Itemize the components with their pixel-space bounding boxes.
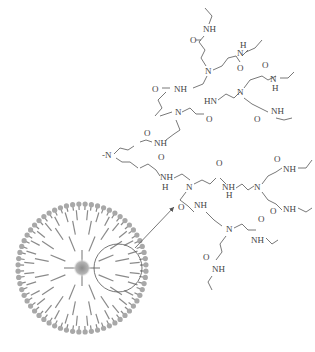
branch-segment bbox=[130, 262, 140, 263]
branch-segment bbox=[35, 275, 49, 278]
n-label: N bbox=[226, 224, 233, 234]
branch-segment bbox=[51, 255, 66, 261]
nh-label: NH bbox=[154, 138, 167, 148]
nh-label: NH bbox=[203, 24, 216, 34]
terminal-group bbox=[16, 256, 21, 261]
branch-segment bbox=[112, 305, 118, 313]
terminal-group bbox=[46, 211, 51, 216]
terminal-group bbox=[127, 308, 132, 313]
terminal-group bbox=[143, 269, 148, 274]
branch-segment bbox=[96, 314, 99, 324]
branch-segment bbox=[87, 316, 88, 326]
branch-segment bbox=[110, 287, 122, 295]
terminal-group bbox=[70, 329, 75, 334]
o-label: O bbox=[152, 84, 159, 94]
nh-label: NH bbox=[271, 106, 284, 116]
terminal-group bbox=[143, 256, 148, 261]
branch-segment bbox=[24, 273, 34, 274]
terminal-group bbox=[95, 327, 100, 332]
branch-segment bbox=[119, 298, 127, 304]
top-branch: NH O N O H N bbox=[190, 8, 262, 88]
n-label: N bbox=[175, 107, 182, 117]
nh-label: NH bbox=[283, 164, 296, 174]
branch-segment bbox=[31, 291, 40, 296]
branch-segment bbox=[124, 241, 133, 246]
h-label: H bbox=[272, 83, 279, 93]
methyl-n-label: -N bbox=[102, 150, 112, 160]
branch-segment bbox=[24, 262, 34, 263]
branch-segment bbox=[119, 231, 127, 237]
terminal-group bbox=[32, 308, 37, 313]
magnifier-circle bbox=[94, 244, 142, 292]
terminal-group bbox=[52, 323, 57, 328]
terminal-group bbox=[25, 232, 30, 237]
branch-segment bbox=[37, 231, 45, 237]
branch-segment bbox=[124, 291, 133, 296]
branch-segment bbox=[42, 241, 54, 249]
branch-segment bbox=[112, 223, 118, 231]
branch-segment bbox=[45, 223, 51, 231]
nh-label: NH bbox=[251, 235, 264, 245]
terminal-group bbox=[137, 293, 142, 298]
terminal-group bbox=[140, 287, 145, 292]
branch-segment bbox=[26, 251, 36, 254]
branch-segment bbox=[76, 316, 77, 326]
chemical-structure: NH O N O H N NH O N HN O N O bbox=[102, 8, 312, 290]
terminal-group bbox=[134, 298, 139, 303]
terminal-group bbox=[134, 232, 139, 237]
branch-segment bbox=[115, 259, 129, 262]
terminal-group bbox=[41, 317, 46, 322]
branch-segment bbox=[99, 275, 114, 281]
terminal-group bbox=[28, 304, 33, 309]
terminal-group bbox=[141, 250, 146, 255]
terminal-group bbox=[89, 329, 94, 334]
branch-segment bbox=[65, 314, 68, 324]
hn-label: HN bbox=[204, 96, 217, 106]
terminal-group bbox=[58, 326, 63, 331]
terminal-group bbox=[89, 202, 94, 207]
branch-segment bbox=[101, 228, 109, 240]
terminal-group bbox=[143, 275, 148, 280]
terminal-group bbox=[15, 269, 20, 274]
n-label: N bbox=[254, 182, 261, 192]
terminal-group bbox=[76, 201, 81, 206]
dendrimer-core bbox=[73, 259, 91, 277]
terminal-group bbox=[95, 203, 100, 208]
terminal-group bbox=[141, 281, 146, 286]
branch-segment bbox=[89, 237, 95, 252]
terminal-group bbox=[36, 218, 41, 223]
terminal-group bbox=[122, 313, 127, 318]
terminal-group bbox=[41, 214, 46, 219]
terminal-group bbox=[107, 208, 112, 213]
terminal-group bbox=[36, 313, 41, 318]
branch-segment bbox=[89, 221, 92, 235]
terminal-group bbox=[17, 281, 22, 286]
o-label: O bbox=[237, 63, 244, 73]
terminal-group bbox=[32, 222, 37, 227]
o-label: O bbox=[144, 128, 151, 138]
branch-segment bbox=[55, 296, 63, 308]
terminal-group bbox=[107, 323, 112, 328]
n-label: N bbox=[237, 48, 244, 58]
branch-segment bbox=[26, 282, 36, 285]
o-label: O bbox=[274, 154, 281, 164]
nh-label: NH bbox=[212, 264, 225, 274]
terminal-group bbox=[112, 320, 117, 325]
terminal-group bbox=[83, 201, 88, 206]
branch-segment bbox=[51, 275, 66, 281]
branch-segment bbox=[45, 305, 51, 313]
upper-left-branch: NH O N HN O N O N H NH O bbox=[152, 60, 294, 124]
o-label: O bbox=[206, 114, 213, 124]
dendrimer-figure: NH O N O H N NH O N HN O N O bbox=[0, 0, 315, 352]
branch-segment bbox=[42, 287, 54, 295]
terminal-group bbox=[17, 250, 22, 255]
branch-segment bbox=[76, 210, 77, 220]
terminal-group bbox=[70, 202, 75, 207]
lower-right-branch: O NH H N O NH O NH O NH N O NH O NH bbox=[178, 154, 312, 290]
terminal-group bbox=[127, 222, 132, 227]
terminal-group bbox=[16, 275, 21, 280]
branch-segment bbox=[89, 301, 92, 315]
o-label: O bbox=[262, 60, 269, 70]
terminal-group bbox=[118, 214, 123, 219]
branch-segment bbox=[69, 285, 75, 300]
